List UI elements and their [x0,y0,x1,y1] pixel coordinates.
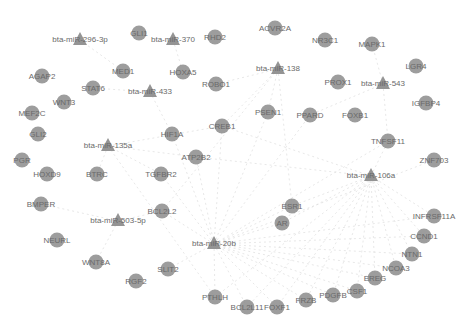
gene-label: ESR1 [282,202,303,211]
gene-node[interactable]: BCL2L11 [231,300,264,315]
mirna-label: bta-miR-503-5p [90,216,146,225]
gene-node[interactable]: BCL2L2 [148,204,177,219]
gene-label: NR3C1 [312,36,339,45]
gene-label: PSEN1 [255,108,282,117]
gene-node[interactable]: PPARD [297,108,324,123]
mirna-label: bta-miR-433 [128,87,173,96]
gene-node[interactable]: NTN1 [402,247,423,262]
gene-node[interactable]: WNT8A [82,255,111,270]
mirna-label: bta-miR-543 [361,79,406,88]
gene-node[interactable]: MEF2C [18,106,45,121]
edge [214,244,396,268]
mirna-label: bta-miR-138 [256,64,301,73]
gene-node[interactable]: FOXF1 [264,300,290,315]
gene-node[interactable]: NR3C1 [312,33,339,48]
mirna-label: bta-miR-20b [192,239,237,248]
gene-node[interactable]: PTHLH [202,290,228,305]
edge [214,244,357,291]
gene-label: LGR4 [406,62,427,71]
mirna-node[interactable]: bta-miR-135a [84,138,133,151]
gene-node[interactable]: FRZB [296,293,317,308]
mirna-label: bta-miR-135a [84,141,133,150]
gene-node[interactable]: PDGFB [319,288,347,303]
gene-node[interactable]: AR [275,216,290,231]
mirna-node[interactable]: bta-miR-433 [128,84,173,97]
gene-label: FOXB1 [342,111,369,120]
edge [306,176,371,300]
gene-node[interactable]: STAT6 [81,81,105,96]
edge [196,157,214,244]
gene-node[interactable]: BMPER [27,197,56,212]
gene-node[interactable]: FOXB1 [342,108,369,123]
gene-node[interactable]: SLIT2 [157,262,179,277]
gene-node[interactable]: CSF1 [347,284,368,299]
gene-node[interactable]: MED1 [112,64,135,79]
mirna-node[interactable]: bta-miR-503-5p [90,213,146,226]
gene-label: BTRC [86,170,108,179]
edge [214,244,375,278]
gene-label: TNFSF11 [371,137,406,146]
gene-label: BMPER [27,200,56,209]
gene-node[interactable]: GLI1 [130,26,148,41]
gene-node[interactable]: PSEN1 [255,105,282,120]
gene-node[interactable]: CCND1 [410,229,438,244]
gene-node[interactable]: INFRSF11A [413,209,456,224]
gene-label: AR [276,219,287,228]
gene-node[interactable]: BTRC [86,167,108,182]
gene-node[interactable]: AGAP2 [29,69,56,84]
gene-node[interactable]: HOXD9 [33,167,61,182]
network-diagram: GLI1RHD2ACVR2ANR3C1MAPK1LGR4AGAP2MED1HOX… [0,0,476,329]
gene-label: STAT6 [81,84,105,93]
gene-label: BCL2L11 [231,303,264,312]
gene-node[interactable]: ROBO1 [202,77,231,92]
mirna-node[interactable]: bta-miR-370 [151,32,196,45]
gene-label: CREB1 [209,122,236,131]
edge [383,84,388,141]
mirna-node[interactable]: bta-miR-138 [256,61,301,74]
gene-node[interactable]: RGF2 [125,274,147,289]
mirna-node[interactable]: bta-miR-106a [347,168,396,181]
gene-node[interactable]: NEURL [43,233,71,248]
nodes-layer: GLI1RHD2ACVR2ANR3C1MAPK1LGR4AGAP2MED1HOX… [13,21,456,315]
gene-label: MED1 [112,67,135,76]
gene-node[interactable]: ZNF703 [420,153,449,168]
gene-node[interactable]: NCOA3 [382,261,410,276]
gene-node[interactable]: GLI2 [29,127,47,142]
gene-node[interactable]: HIF1A [161,127,184,142]
gene-node[interactable]: WNT3 [53,95,76,110]
gene-label: NTN1 [402,250,423,259]
edge [214,244,215,297]
gene-label: ATP2B2 [181,153,211,162]
edge [214,115,310,244]
gene-label: FRZB [296,296,317,305]
mirna-node[interactable]: bta-miR-296-3p [52,32,108,45]
gene-label: EREG [364,274,387,283]
edge [292,176,371,206]
mirna-label: bta-miR-296-3p [52,35,108,44]
gene-node[interactable]: PROX1 [324,75,352,90]
gene-label: HOXD9 [33,170,61,179]
gene-node[interactable]: TGFBR2 [145,167,177,182]
gene-label: GLI2 [29,130,47,139]
gene-node[interactable]: MAPK1 [358,37,386,52]
gene-node[interactable]: HOXA5 [169,65,197,80]
gene-label: BCL2L2 [148,207,177,216]
gene-label: NEURL [43,236,71,245]
gene-node[interactable]: ATP2B2 [181,150,211,165]
gene-node[interactable]: ACVR2A [259,21,292,36]
gene-label: MEF2C [18,109,45,118]
edge [222,126,371,176]
gene-node[interactable]: RHD2 [204,30,226,45]
mirna-node[interactable]: bta-miR-543 [361,76,406,89]
gene-node[interactable]: LGR4 [406,59,427,74]
gene-label: FOXF1 [264,303,290,312]
gene-node[interactable]: PGR [13,153,31,168]
gene-label: NCOA3 [382,264,410,273]
gene-node[interactable]: CREB1 [209,119,236,134]
gene-node[interactable]: IGFBP4 [412,96,441,111]
mirna-label: bta-miR-106a [347,171,396,180]
gene-node[interactable]: TNFSF11 [371,134,406,149]
gene-label: GLI1 [130,29,148,38]
gene-label: ACVR2A [259,24,292,33]
gene-label: ZNF703 [420,156,449,165]
